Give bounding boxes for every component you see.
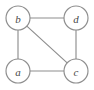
graph-figure: b d a c bbox=[0, 0, 94, 90]
node-d: d bbox=[64, 6, 88, 30]
node-b-label: b bbox=[15, 13, 21, 25]
graph-canvas: b d a c bbox=[0, 0, 94, 90]
node-d-label: d bbox=[73, 13, 79, 25]
node-c: c bbox=[64, 59, 88, 83]
edge-b-c-diagonal bbox=[27, 26, 67, 63]
node-a-label: a bbox=[15, 66, 21, 78]
node-c-label: c bbox=[74, 66, 79, 78]
node-a: a bbox=[6, 59, 30, 83]
node-b: b bbox=[6, 6, 30, 30]
